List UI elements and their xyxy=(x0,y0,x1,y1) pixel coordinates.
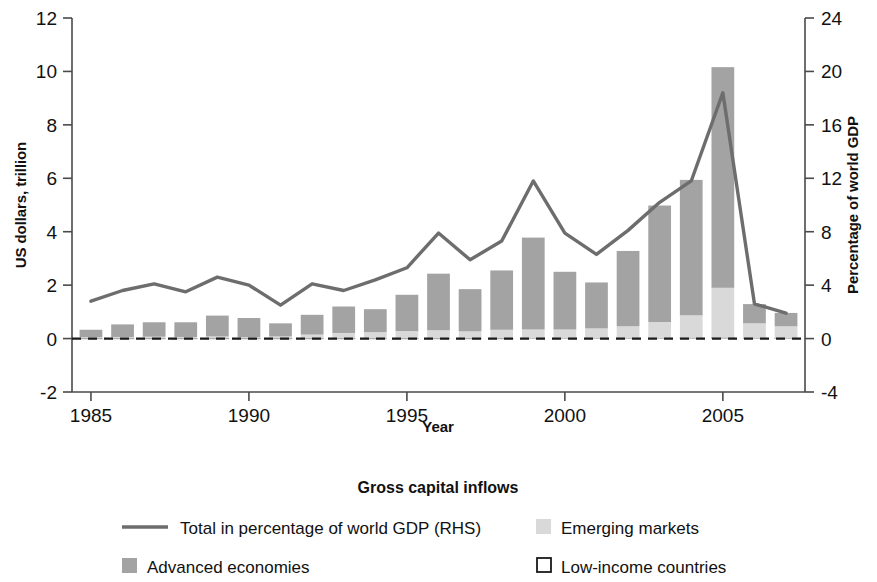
right-tick-label: 20 xyxy=(821,61,842,82)
right-axis-title: Percentage of world GDP xyxy=(844,116,861,294)
bar-segment xyxy=(522,329,545,338)
legend-swatch-advanced-economies-icon xyxy=(122,558,137,573)
left-tick-label: 10 xyxy=(36,61,57,82)
x-tick-label: 2005 xyxy=(702,405,744,426)
legend-swatch-emerging-markets-icon xyxy=(536,519,551,534)
bar-segment xyxy=(490,270,513,329)
bar-segment xyxy=(80,330,103,337)
bar-segment xyxy=(554,272,577,330)
bar-segment xyxy=(648,322,671,338)
right-tick-label: 8 xyxy=(821,222,832,243)
bar-segment xyxy=(111,324,134,337)
right-tick-label: 0 xyxy=(821,329,832,350)
bar-segment xyxy=(490,330,513,339)
bar-segment xyxy=(775,313,798,326)
bar-segment xyxy=(143,322,166,336)
right-tick-label: 4 xyxy=(821,275,832,296)
bar-segment xyxy=(238,318,261,337)
bar-segment xyxy=(364,309,387,332)
left-tick-label: 12 xyxy=(36,8,57,29)
bar-segment xyxy=(648,206,671,322)
legend-label-low-income-countries: Low-income countries xyxy=(561,558,726,577)
legend-swatch-low-income-countries-icon xyxy=(537,558,551,572)
left-tick-label: 8 xyxy=(46,115,57,136)
legend-item-emerging-markets: Emerging markets xyxy=(536,519,699,538)
legend-item-advanced-economies: Advanced economies xyxy=(122,558,310,577)
bar-segment xyxy=(617,326,640,338)
bar-segment xyxy=(301,315,324,335)
legend-item-low-income-countries: Low-income countries xyxy=(537,558,726,577)
bar-segment xyxy=(364,332,387,338)
right-tick-label: -4 xyxy=(821,382,838,403)
bar-segment xyxy=(459,331,482,338)
legend-title: Gross capital inflows xyxy=(358,479,519,496)
x-axis-title: Year xyxy=(422,418,454,435)
right-tick-label: 24 xyxy=(821,8,843,29)
left-tick-label: -2 xyxy=(40,382,57,403)
bar-segment xyxy=(680,315,703,337)
bar-segment xyxy=(269,323,292,336)
gross-capital-inflows-chart: 121086420-2 US dollars, trillion 2420161… xyxy=(0,0,877,582)
bar-segment xyxy=(775,326,798,338)
right-tick-label: 16 xyxy=(821,115,842,136)
bar-segment xyxy=(427,330,450,338)
right-tick-label: 12 xyxy=(821,168,842,189)
x-tick-label: 2000 xyxy=(544,405,586,426)
legend-label-total-percentage: Total in percentage of world GDP (RHS) xyxy=(180,519,481,538)
legend-label-emerging-markets: Emerging markets xyxy=(561,519,699,538)
x-tick-label: 1990 xyxy=(228,405,270,426)
bar-segment xyxy=(332,307,355,333)
bar-segment xyxy=(522,238,545,330)
bar-segment xyxy=(459,289,482,331)
bar-segment xyxy=(206,316,229,337)
bar-segment xyxy=(585,282,608,328)
bar-segment xyxy=(711,288,734,338)
bar-segment xyxy=(174,322,197,337)
left-tick-label: 4 xyxy=(46,222,57,243)
bar-segment xyxy=(585,328,608,338)
left-tick-label: 0 xyxy=(46,329,57,350)
bar-segment xyxy=(396,331,419,338)
bar-segment xyxy=(617,251,640,326)
x-tick-label: 1985 xyxy=(70,405,112,426)
left-tick-label: 6 xyxy=(46,168,57,189)
left-tick-label: 2 xyxy=(46,275,57,296)
bar-segment xyxy=(743,323,766,338)
left-axis-title: US dollars, trillion xyxy=(12,142,29,268)
bar-segment xyxy=(554,329,577,338)
bar-segment xyxy=(427,274,450,331)
bar-segment xyxy=(680,180,703,315)
bar-segment xyxy=(396,295,419,331)
legend-label-advanced-economies: Advanced economies xyxy=(147,558,310,577)
